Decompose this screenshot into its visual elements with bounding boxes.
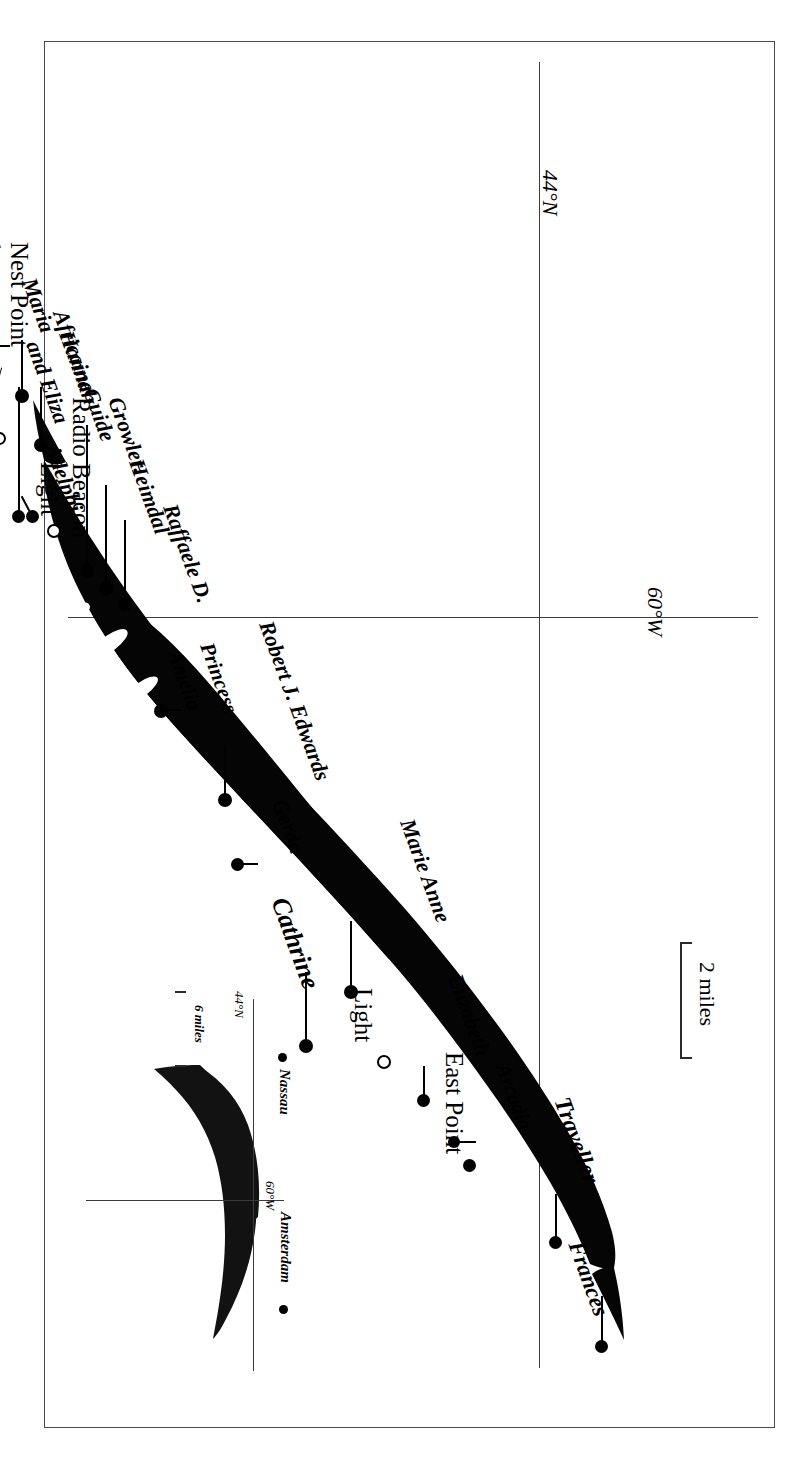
scale-bar-inset-tick-right (175, 1065, 186, 1067)
scale-bar-main-label: 2 miles (696, 962, 718, 1026)
leader-nest-point (0, 367, 2, 439)
inset-parallel-44n (253, 999, 254, 1371)
inset-dot-nassau[interactable] (278, 1053, 287, 1062)
wreck-dot-africaine[interactable] (15, 389, 29, 403)
rotated-map-canvas: Frances Traveller East Point Arcadia Eli… (45, 42, 776, 1429)
graticule-label-44n: 44°N (539, 170, 561, 215)
scale-bar-main-tick-left (680, 942, 692, 944)
leader-africaine (21, 340, 23, 391)
leader-maria (0, 345, 10, 347)
scale-bar-inset-tick-left (175, 991, 186, 993)
inset-map: Amsterdam Nassau 44°N 60°W 6 miles (66, 977, 296, 1397)
scale-bar-inset-label: 6 miles (193, 1005, 206, 1043)
leader-hannah-and-eliza (18, 387, 20, 513)
inset-dot-amsterdam[interactable] (279, 1305, 288, 1314)
inset-label-60w: 60°W (264, 1181, 277, 1210)
inset-label-amsterdam: Amsterdam (278, 1212, 293, 1283)
graticule-label-60w: 60°W (644, 587, 666, 636)
scale-bar-inset: 6 miles (162, 991, 192, 1111)
leader-guide (40, 387, 42, 440)
scale-bar-main-tick-right (680, 1057, 692, 1059)
inset-label-44n: 44°N (233, 991, 246, 1018)
place-dot-nest-point[interactable] (0, 432, 6, 445)
map-page: Frances Traveller East Point Arcadia Eli… (0, 0, 811, 1470)
inset-meridian-60w (86, 1200, 284, 1201)
inset-label-nassau: Nassau (277, 1069, 292, 1115)
scale-bar-main-rule (680, 942, 682, 1059)
map-frame: Frances Traveller East Point Arcadia Eli… (44, 41, 775, 1428)
scale-bar-main: 2 miles (660, 942, 700, 1102)
wreck-label-state-of: State of (0, 180, 3, 252)
